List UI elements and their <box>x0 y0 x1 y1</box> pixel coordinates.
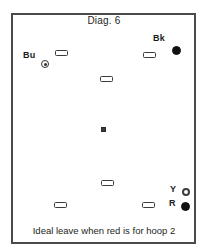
croquet-lawn-diagram: Diag. 6 BuBkYR Ideal leave when red is f… <box>0 0 208 252</box>
ball-label-red: R <box>169 198 176 208</box>
hoop-lower-left <box>54 202 67 208</box>
center-peg <box>101 127 106 132</box>
hoop-lower-right <box>142 202 155 208</box>
hoop-upper-left <box>55 50 68 56</box>
diagram-caption: Ideal leave when red is for hoop 2 <box>0 225 208 236</box>
ball-black <box>172 46 181 55</box>
ball-label-blue: Bu <box>23 50 36 60</box>
ball-label-black: Bk <box>153 33 165 43</box>
hoop-upper-right <box>143 52 156 58</box>
ball-red <box>181 202 190 211</box>
hoop-middle <box>100 76 113 82</box>
hoop-lower-middle <box>101 180 114 186</box>
diagram-title: Diag. 6 <box>0 15 208 26</box>
ball-label-yellow: Y <box>170 184 176 194</box>
ball-blue <box>41 60 49 68</box>
ball-yellow <box>182 188 190 196</box>
